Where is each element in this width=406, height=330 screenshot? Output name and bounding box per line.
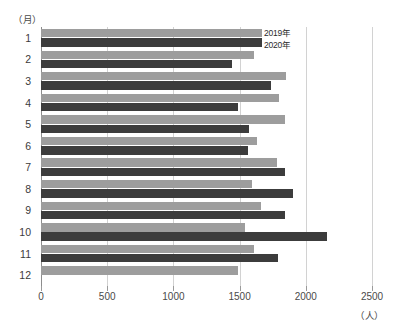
bar-2020年-month-1 bbox=[41, 38, 262, 46]
bar-2020年-month-5 bbox=[41, 125, 249, 133]
chart-legend: 2019年 2020年 bbox=[264, 28, 291, 51]
y-axis-tick-labels: 123456789101112 bbox=[0, 27, 36, 286]
bar-2020年-month-7 bbox=[41, 168, 285, 176]
legend-item-2019: 2019年 bbox=[264, 28, 291, 40]
x-tick-label-1000: 1000 bbox=[162, 291, 184, 302]
gridline-2500 bbox=[372, 27, 373, 286]
bar-2019年-month-10 bbox=[41, 223, 245, 231]
y-tick-label-month-12: 12 bbox=[19, 269, 31, 281]
bar-2019年-month-2 bbox=[41, 51, 254, 59]
x-axis-unit-label: （人） bbox=[355, 308, 384, 322]
bar-2019年-month-11 bbox=[41, 245, 254, 253]
x-tick-label-0: 0 bbox=[38, 291, 44, 302]
bar-2019年-month-3 bbox=[41, 72, 286, 80]
bar-2019年-month-8 bbox=[41, 180, 252, 188]
x-tick-label-500: 500 bbox=[99, 291, 116, 302]
x-tick-label-2500: 2500 bbox=[361, 291, 383, 302]
y-tick-label-month-4: 4 bbox=[25, 97, 31, 109]
y-axis-unit-label: （月） bbox=[13, 12, 42, 26]
y-tick-label-month-2: 2 bbox=[25, 53, 31, 65]
x-tick-label-2000: 2000 bbox=[295, 291, 317, 302]
y-tick-label-month-9: 9 bbox=[25, 204, 31, 216]
y-tick-label-month-6: 6 bbox=[25, 140, 31, 152]
x-tick-label-1500: 1500 bbox=[228, 291, 250, 302]
y-tick-label-month-10: 10 bbox=[19, 226, 31, 238]
gridline-2000 bbox=[306, 27, 307, 286]
legend-item-2020: 2020年 bbox=[264, 40, 291, 52]
bar-2020年-month-8 bbox=[41, 189, 293, 197]
bar-2020年-month-2 bbox=[41, 60, 232, 68]
bar-2020年-month-10 bbox=[41, 232, 327, 240]
y-tick-label-month-8: 8 bbox=[25, 183, 31, 195]
y-tick-label-month-1: 1 bbox=[25, 32, 31, 44]
bar-2020年-month-9 bbox=[41, 211, 285, 219]
bar-2019年-month-6 bbox=[41, 137, 257, 145]
bar-2020年-month-11 bbox=[41, 254, 278, 262]
bar-2019年-month-9 bbox=[41, 202, 261, 210]
bar-2020年-month-6 bbox=[41, 146, 248, 154]
plot-area bbox=[41, 27, 372, 286]
bar-chart: （月） 123456789101112 05001000150020002500… bbox=[0, 0, 406, 330]
y-tick-label-month-5: 5 bbox=[25, 118, 31, 130]
bar-2020年-month-4 bbox=[41, 103, 238, 111]
y-tick-label-month-11: 11 bbox=[20, 248, 31, 260]
bar-2019年-month-5 bbox=[41, 115, 285, 123]
bar-2019年-month-1 bbox=[41, 29, 262, 37]
y-tick-label-month-7: 7 bbox=[25, 161, 31, 173]
bar-2019年-month-12 bbox=[41, 266, 238, 274]
bar-2020年-month-3 bbox=[41, 81, 271, 89]
y-tick-label-month-3: 3 bbox=[25, 75, 31, 87]
bar-2019年-month-7 bbox=[41, 158, 277, 166]
bar-2019年-month-4 bbox=[41, 94, 279, 102]
